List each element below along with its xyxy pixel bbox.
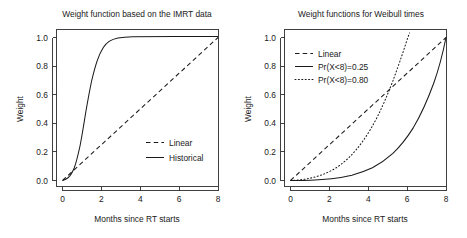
left-ytick-0: 0.0 [36, 176, 48, 186]
left-ytick-5: 1.0 [36, 33, 48, 43]
right-ytick-5: 1.0 [264, 33, 276, 43]
right-legend-label-pr025: Pr(X<8)=0.25 [318, 62, 369, 72]
left-plot-frame [57, 30, 219, 187]
right-ytick-2: 0.4 [264, 118, 276, 128]
left-ytick-2: 0.4 [36, 118, 48, 128]
left-xtick-1: 2 [99, 194, 104, 204]
right-y-ticks [281, 38, 285, 181]
right-ytick-4: 0.8 [264, 61, 276, 71]
left-xtick-4: 8 [216, 194, 221, 204]
left-xtick-2: 4 [138, 194, 143, 204]
left-xtick-0: 0 [60, 194, 65, 204]
right-curve-pr080 [291, 33, 410, 181]
left-x-ticks [63, 187, 219, 191]
right-ytick-3: 0.6 [264, 90, 276, 100]
right-ytick-0: 0.0 [264, 176, 276, 186]
right-xtick-3: 6 [405, 194, 410, 204]
left-chart-title: Weight function based on the IMRT data [62, 9, 212, 19]
right-legend: Linear Pr(X<8)=0.25 Pr(X<8)=0.80 [295, 49, 369, 85]
left-ytick-1: 0.2 [36, 147, 48, 157]
left-xtick-3: 6 [177, 194, 182, 204]
right-ytick-1: 0.2 [264, 147, 276, 157]
left-legend: Linear Historical [146, 138, 204, 163]
left-panel-svg: Weight function based on the IMRT data 0… [0, 0, 233, 238]
left-ytick-3: 0.6 [36, 90, 48, 100]
right-xtick-1: 2 [327, 194, 332, 204]
left-y-axis-label: Weight [15, 95, 25, 122]
right-x-ticks [291, 187, 447, 191]
left-y-ticks [53, 38, 57, 181]
left-ytick-4: 0.8 [36, 61, 48, 71]
right-x-axis-label: Months since RT starts [322, 214, 407, 224]
right-y-axis-label: Weight [243, 95, 253, 122]
left-legend-label-linear: Linear [169, 138, 192, 148]
right-panel-svg: Weight functions for Weibull times 0.0 0… [233, 0, 466, 238]
right-plot-frame [285, 30, 447, 187]
right-legend-label-linear: Linear [318, 49, 341, 59]
right-xtick-4: 8 [444, 194, 449, 204]
figure-two-panel-weight-functions: Weight function based on the IMRT data 0… [0, 0, 467, 238]
left-x-axis-label: Months since RT starts [94, 214, 179, 224]
right-chart-title: Weight functions for Weibull times [298, 9, 424, 19]
right-xtick-0: 0 [288, 194, 293, 204]
chart-panel-right: Weight functions for Weibull times 0.0 0… [233, 0, 466, 238]
chart-panel-left: Weight function based on the IMRT data 0… [0, 0, 233, 238]
right-xtick-2: 4 [366, 194, 371, 204]
left-legend-label-historical: Historical [169, 153, 204, 163]
right-legend-label-pr080: Pr(X<8)=0.80 [318, 75, 369, 85]
